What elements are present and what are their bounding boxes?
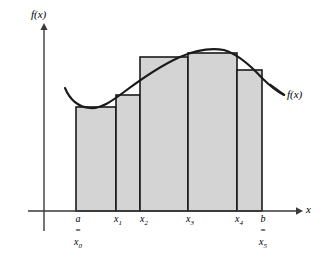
plot-canvas: [0, 0, 322, 261]
tick-label-a: a: [72, 214, 84, 224]
tick-label-x0: x0: [69, 237, 87, 250]
riemann-sum-figure: f(x) x f(x) a = x0 x1 x2 x3 x4 b = x5: [0, 0, 322, 261]
tick-label-b-text: b: [261, 213, 266, 224]
tick-label-x3-sub: 3: [190, 219, 194, 227]
x-axis-arrow-icon: [296, 207, 303, 214]
riemann-rectangles: [76, 53, 262, 211]
riemann-rectangle: [116, 95, 140, 211]
tick-label-x5-sub: 5: [263, 242, 267, 250]
riemann-rectangle: [188, 53, 237, 211]
tick-label-x1: x1: [110, 214, 126, 227]
riemann-rectangle: [237, 70, 262, 211]
tick-label-x2: x2: [136, 214, 152, 227]
curve-label-leader-line: [270, 84, 285, 95]
tick-equals-a: =: [72, 226, 84, 235]
curve-label: f(x): [287, 89, 302, 100]
riemann-rectangle: [76, 107, 116, 211]
tick-label-x4: x4: [231, 214, 247, 227]
tick-equals-b: =: [257, 226, 269, 235]
riemann-rectangle: [140, 57, 188, 211]
tick-label-x2-sub: 2: [144, 219, 148, 227]
tick-label-x4-sub: 4: [239, 219, 243, 227]
y-axis-label: f(x): [31, 9, 46, 20]
tick-label-x1-sub: 1: [118, 219, 122, 227]
tick-label-b: b: [257, 214, 269, 224]
y-axis-arrow-icon: [40, 23, 47, 30]
tick-label-x0-sub: 0: [78, 242, 82, 250]
x-axis-label: x: [306, 204, 311, 215]
tick-label-a-text: a: [76, 213, 81, 224]
tick-label-x5: x5: [254, 237, 272, 250]
tick-label-x3: x3: [182, 214, 198, 227]
